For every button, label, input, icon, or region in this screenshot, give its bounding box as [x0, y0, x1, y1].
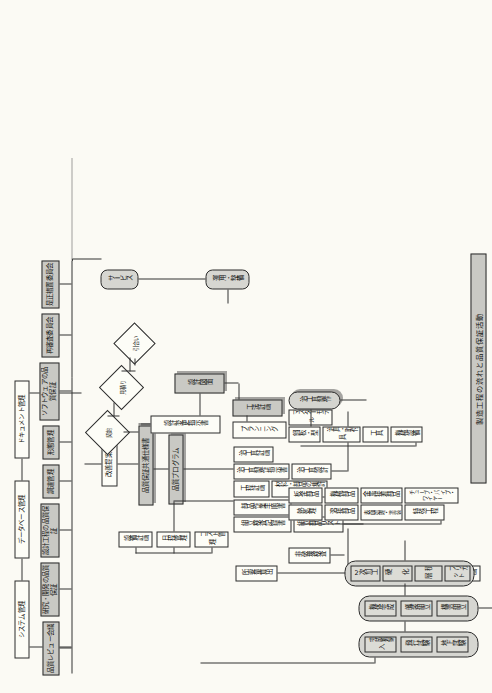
tooling-manufacture-box: 治工具製作: [288, 391, 340, 409]
tooling-item-1: 治具・取付具: [322, 426, 360, 442]
qa-item-0: 品質レビュー会議: [42, 621, 59, 675]
decision-estimate: 見積り: [105, 371, 137, 403]
qa-item-6: 再審査委員会: [41, 313, 59, 357]
test-item-1: 飛行試験: [400, 636, 432, 652]
tool-doc-order: 治工具製作指示書: [233, 463, 289, 479]
part-row1-0: 板金部品: [288, 487, 322, 503]
maintenance-box: 運用・整備: [205, 269, 249, 289]
design-change-order: 設計変更指示書: [150, 415, 220, 433]
decision-inquiry: 引合い: [119, 328, 149, 358]
work-doc-assembly-record: 組立検査記録書: [233, 516, 291, 532]
work-doc-process-plan: 工程計画: [233, 480, 269, 497]
part-row1-2: 金属接着部品: [360, 487, 402, 503]
part-row2-1: 溶接部品: [324, 504, 358, 520]
requirement-calc: 所要量算出: [235, 565, 277, 581]
composite-item-0: 2次加工: [350, 565, 380, 581]
figure-title-band: 製造工程の流れと品質保証活動: [470, 253, 486, 483]
tooling-item-0: 鋼板・型: [288, 426, 320, 442]
tool-doc-plan: 治工具計画: [233, 446, 273, 462]
dashed-connector: [71, 158, 72, 260]
method-plan: 工法計画: [232, 399, 282, 416]
part-row1-3: チューブ・パイプ・ワイヤー: [404, 487, 458, 503]
diagram-canvas: システム管理 データベース管理 ドキュメント管理 品質レビュー会議 研究・開発の…: [0, 0, 492, 693]
assembly-item-2: 機体完成: [364, 600, 396, 616]
qa-item-3: 調達管理: [42, 464, 59, 498]
service-box: サービス: [100, 269, 138, 289]
cost-management: コスト管理: [194, 531, 228, 547]
work-doc-part-procedure: 部品作業手順書: [233, 499, 291, 515]
decision-contract: 契約: [91, 416, 123, 448]
figure-page: システム管理 データベース管理 ドキュメント管理 品質レビュー会議 研究・開発の…: [0, 0, 492, 693]
part-row2-2: 表面処理・塗装: [360, 504, 402, 520]
part-row2-0: 熱処理: [288, 504, 322, 520]
tooling-item-3: 機械設備: [390, 426, 422, 442]
planning-box: プランニング: [232, 421, 286, 438]
part-row2-3: 特殊工程: [404, 504, 444, 520]
qa-item-1: 研究・開発の品質保証: [40, 562, 59, 616]
management-item-system: システム管理: [14, 580, 29, 658]
management-item-database: データベース管理: [14, 480, 29, 558]
composite-item-2: 積 層: [414, 565, 442, 581]
management-item-document: ドキュメント管理: [14, 380, 29, 458]
quality-program: 品質プログラム: [168, 434, 183, 504]
qa-item-4: 形態管理: [42, 425, 59, 459]
tooling-item-2: 工具: [362, 426, 388, 442]
assembly-item-1: 艤装組立: [400, 600, 432, 616]
equipment-plan: 設備計画: [118, 531, 152, 547]
assembly-item-0: 構造組立: [436, 600, 468, 616]
composite-item-1: 硬 化: [382, 565, 412, 581]
ndi-inspection: 非破壊検査: [288, 547, 330, 563]
schedule-management: 日程管理: [156, 531, 190, 547]
test-item-2: 完成機納入: [364, 636, 396, 652]
qa-item-5: ソフトウェアの品質保証: [39, 362, 59, 420]
qa-item-7: 是正措置委員会: [41, 260, 59, 308]
design-drawing: 設計図面: [174, 373, 224, 393]
part-row1-1: 機械部品: [324, 487, 358, 503]
test-item-0: 地上試験: [436, 636, 468, 652]
composite-item-3: プリカット: [444, 565, 470, 581]
qa-common-spec: 品質保証共通仕様書: [138, 425, 153, 505]
tool-doc-design: 治工具設計: [291, 463, 331, 479]
qa-item-2: 設計工程の品質保証: [40, 503, 59, 557]
